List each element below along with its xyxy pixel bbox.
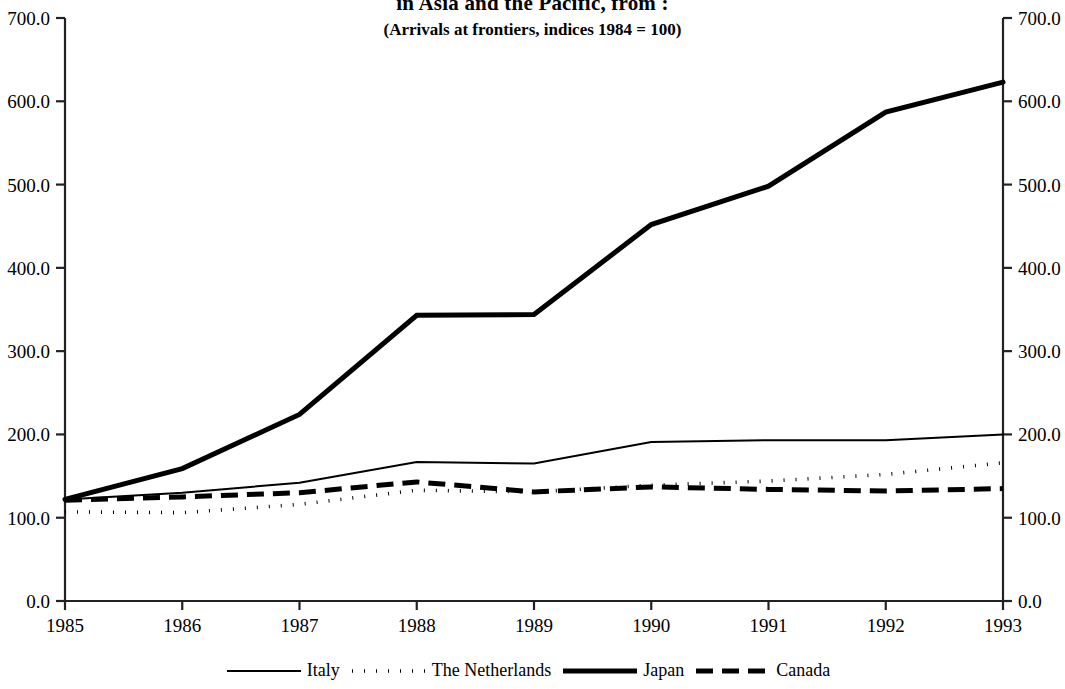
legend-swatch-solid-thin (225, 664, 303, 678)
x-tick-label: 1990 (632, 615, 670, 636)
y-tick-label-left: 200.0 (7, 424, 50, 445)
x-tick-label: 1986 (163, 615, 201, 636)
y-tick-label-right: 400.0 (1018, 258, 1061, 279)
y-tick-label-left: 400.0 (7, 258, 50, 279)
chart-container: in Asia and the Pacific, from : (Arrival… (0, 0, 1065, 689)
y-tick-label-left: 500.0 (7, 175, 50, 196)
legend-item-japan: Japan (561, 660, 684, 681)
x-tick-label: 1988 (398, 615, 436, 636)
series-line-the-netherlands (65, 463, 1003, 513)
chart-plot-area: 0.00.0100.0100.0200.0200.0300.0300.0400.… (0, 0, 1065, 689)
y-tick-label-left: 300.0 (7, 341, 50, 362)
y-tick-label-left: 0.0 (26, 591, 50, 612)
legend-swatch-dotted (350, 664, 428, 678)
legend-label: The Netherlands (432, 660, 551, 681)
legend-swatch-solid-thick (561, 664, 639, 678)
x-tick-label: 1987 (281, 615, 319, 636)
legend-label: Italy (307, 660, 340, 681)
y-tick-label-right: 100.0 (1018, 508, 1061, 529)
x-tick-label: 1991 (750, 615, 788, 636)
y-tick-label-left: 700.0 (7, 8, 50, 29)
y-tick-label-right: 600.0 (1018, 91, 1061, 112)
x-tick-label: 1992 (867, 615, 905, 636)
legend-item-canada: Canada (694, 660, 830, 681)
legend-label: Canada (776, 660, 830, 681)
x-tick-label: 1993 (984, 615, 1022, 636)
y-tick-label-right: 500.0 (1018, 175, 1061, 196)
series-line-japan (65, 82, 1003, 499)
series-layer (65, 82, 1003, 513)
x-tick-label: 1989 (515, 615, 553, 636)
x-tick-label: 1985 (46, 615, 84, 636)
y-tick-label-right: 300.0 (1018, 341, 1061, 362)
legend-item-the-netherlands: The Netherlands (350, 660, 551, 681)
y-tick-label-right: 700.0 (1018, 8, 1061, 29)
legend-label: Japan (643, 660, 684, 681)
y-tick-label-right: 200.0 (1018, 424, 1061, 445)
y-tick-label-left: 100.0 (7, 508, 50, 529)
legend-item-italy: Italy (225, 660, 340, 681)
y-tick-label-right: 0.0 (1018, 591, 1042, 612)
tick-labels-layer: 0.00.0100.0100.0200.0200.0300.0300.0400.… (7, 8, 1061, 636)
legend-swatch-dashed-thick (694, 664, 772, 678)
y-tick-label-left: 600.0 (7, 91, 50, 112)
chart-legend: ItalyThe NetherlandsJapanCanada (0, 660, 1065, 681)
